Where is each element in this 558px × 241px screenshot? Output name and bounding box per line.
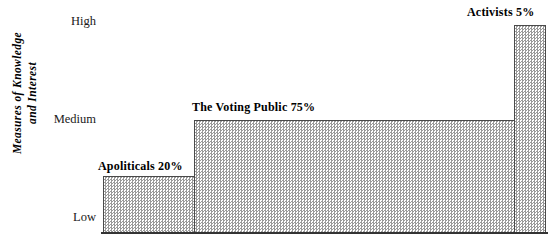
bar-voting-public — [194, 120, 515, 233]
chart-container: Measures of Knowledge and Interest High … — [0, 0, 558, 241]
x-axis-line — [101, 232, 548, 234]
bar-activists — [514, 25, 546, 233]
plot-area: Apoliticals 20% The Voting Public 75% Ac… — [0, 0, 558, 241]
bar-label-apoliticals: Apoliticals 20% — [98, 159, 183, 174]
bar-apoliticals — [103, 176, 195, 233]
bar-label-voting-public: The Voting Public 75% — [192, 100, 315, 115]
bar-label-activists: Activists 5% — [467, 5, 534, 20]
